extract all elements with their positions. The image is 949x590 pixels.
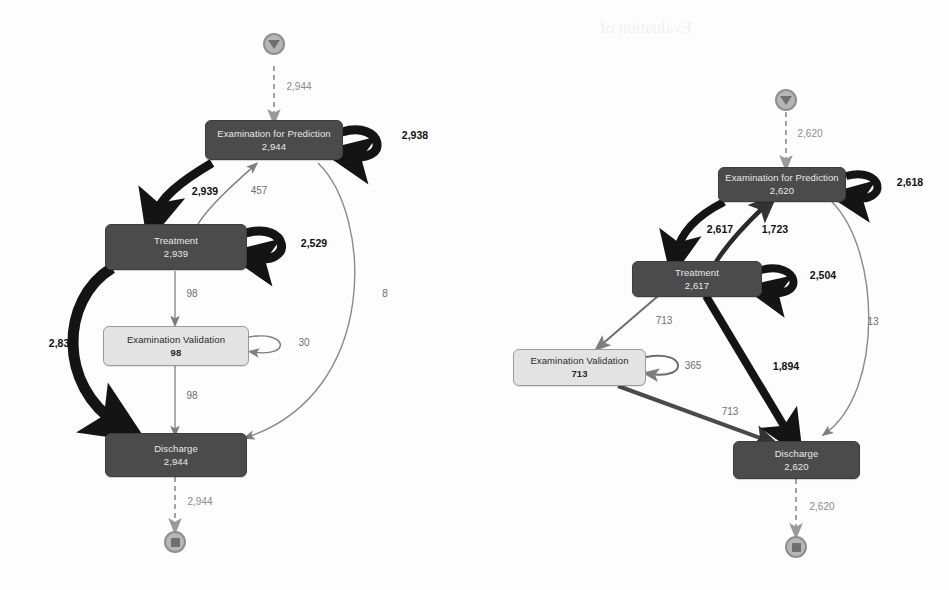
edge-label-r-exam-discharge: 13 [867, 316, 878, 327]
node-count: 2,939 [164, 248, 188, 260]
left-node-treatment[interactable]: Treatment 2,939 [105, 224, 247, 270]
edge-label-r-valid-discharge: 713 [722, 406, 739, 417]
node-count: 2,617 [685, 280, 709, 292]
play-triangle-icon [780, 96, 792, 105]
edge-l-valid-self [249, 336, 280, 353]
right-node-examination-for-prediction[interactable]: Examination for Prediction 2,620 [718, 167, 846, 202]
edge-label-l-start-exam: 2,944 [286, 81, 311, 92]
edge-label-l-treatment-disch: 2,838 [49, 337, 75, 349]
edge-r-exam-self [846, 174, 878, 198]
edge-label-r-treatment-disch: 1,894 [773, 360, 799, 372]
left-node-discharge[interactable]: Discharge 2,944 [105, 433, 247, 477]
edge-l-treatment-self [246, 231, 281, 259]
right-end-node[interactable] [785, 536, 807, 558]
right-node-discharge[interactable]: Discharge 2,620 [733, 441, 860, 479]
node-count: 713 [571, 368, 587, 380]
node-label: Examination for Prediction [725, 172, 839, 184]
right-start-node[interactable] [775, 89, 797, 111]
edge-label-r-treatment-self: 2,504 [810, 269, 836, 281]
diagram-canvas: Evaluation of [0, 0, 949, 590]
node-label: Discharge [775, 448, 819, 460]
node-label: Treatment [154, 235, 198, 247]
right-node-examination-validation[interactable]: Examination Validation 713 [513, 349, 646, 386]
left-start-node[interactable] [263, 33, 285, 55]
node-count: 98 [171, 347, 182, 359]
edge-label-r-exam-self: 2,618 [897, 176, 923, 188]
edge-r-treatment-self [761, 268, 793, 293]
edge-label-l-exam-self: 2,938 [402, 129, 428, 141]
edge-l-exam-self [342, 130, 377, 157]
node-count: 2,620 [770, 185, 794, 197]
edge-label-l-exam-treatment: 2,939 [192, 185, 218, 197]
edge-label-r-exam-treatment: 2,617 [707, 223, 733, 235]
node-label: Treatment [675, 267, 719, 279]
node-label: Examination Validation [127, 334, 225, 346]
edge-r-valid-self [646, 356, 678, 375]
node-label: Examination Validation [530, 355, 628, 367]
edge-l-exam-discharge [248, 163, 355, 437]
stop-square-icon [171, 538, 180, 547]
left-node-examination-validation[interactable]: Examination Validation 98 [103, 326, 249, 366]
edge-label-l-treatment-valid: 98 [186, 288, 197, 299]
edge-r-exam-discharge [826, 202, 869, 433]
edge-label-l-valid-discharge: 98 [186, 390, 197, 401]
edge-label-l-valid-self: 30 [298, 337, 309, 348]
right-node-treatment[interactable]: Treatment 2,617 [632, 261, 762, 297]
node-label: Discharge [154, 443, 198, 455]
left-end-node[interactable] [164, 531, 186, 553]
play-triangle-icon [268, 40, 280, 49]
edge-label-l-treatment-self: 2,529 [301, 237, 327, 249]
edge-label-l-treatment-exam: 457 [251, 185, 268, 196]
node-count: 2,944 [262, 141, 286, 153]
stop-square-icon [792, 543, 801, 552]
edge-label-r-treatment-valid: 713 [656, 315, 673, 326]
edge-layer [0, 0, 949, 590]
edge-label-l-exam-discharge: 8 [382, 288, 388, 299]
left-node-examination-for-prediction[interactable]: Examination for Prediction 2,944 [205, 120, 343, 160]
edge-label-r-valid-self: 365 [685, 360, 702, 371]
node-count: 2,944 [164, 456, 188, 468]
edge-r-treatment-valid [600, 296, 658, 346]
node-count: 2,620 [784, 461, 808, 473]
edge-r-valid-discharge [618, 386, 766, 440]
edge-label-r-start-exam: 2,620 [797, 128, 822, 139]
edge-label-l-discharge-end: 2,944 [187, 496, 212, 507]
node-label: Examination for Prediction [217, 128, 331, 140]
edge-label-r-treatment-exam: 1,723 [762, 223, 788, 235]
edge-label-r-discharge-end: 2,620 [809, 501, 834, 512]
